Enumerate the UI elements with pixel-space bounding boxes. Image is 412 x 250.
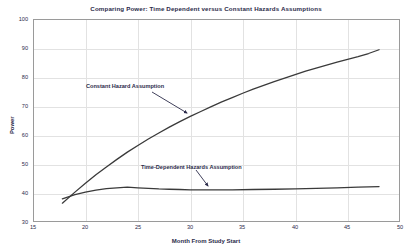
- y-axis-title: Power: [9, 117, 15, 134]
- x-tick-label-50: 50: [388, 224, 412, 230]
- annotation-constant-hazard: Constant Hazard Assumption: [86, 83, 164, 89]
- gridline-horizontal: [34, 136, 399, 137]
- chart-title: Comparing Power: Time Dependent versus C…: [0, 5, 412, 12]
- annotation-time-dependent-hazards: Time-Dependent Hazards Assumption: [141, 164, 242, 170]
- x-tick-label-25: 25: [126, 224, 150, 230]
- gridline-horizontal: [34, 194, 399, 195]
- y-tick-label-90: 90: [8, 45, 28, 51]
- plot-area: [33, 19, 400, 222]
- x-tick-label-35: 35: [230, 224, 254, 230]
- y-tick-label-80: 80: [8, 74, 28, 80]
- figure-canvas: Comparing Power: Time Dependent versus C…: [0, 0, 412, 250]
- gridline-vertical: [191, 20, 192, 221]
- x-axis-title: Month From Study Start: [0, 238, 412, 244]
- y-tick-label-50: 50: [8, 161, 28, 167]
- x-tick-label-30: 30: [178, 224, 202, 230]
- gridline-horizontal: [34, 49, 399, 50]
- x-tick-label-20: 20: [73, 224, 97, 230]
- y-tick-label-70: 70: [8, 103, 28, 109]
- gridline-vertical: [348, 20, 349, 221]
- gridline-vertical: [296, 20, 297, 221]
- gridline-vertical: [138, 20, 139, 221]
- y-tick-label-40: 40: [8, 190, 28, 196]
- gridline-horizontal: [34, 107, 399, 108]
- x-tick-label-15: 15: [21, 224, 45, 230]
- x-tick-label-45: 45: [335, 224, 359, 230]
- y-tick-label-100: 100: [8, 16, 28, 22]
- x-tick-label-40: 40: [283, 224, 307, 230]
- gridline-horizontal: [34, 78, 399, 79]
- gridline-vertical: [86, 20, 87, 221]
- gridline-vertical: [243, 20, 244, 221]
